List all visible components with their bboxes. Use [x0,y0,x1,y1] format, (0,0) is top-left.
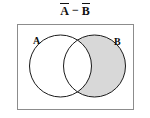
figure-title: A − B [0,1,150,19]
title-left-operand: A [60,3,69,17]
venn-diagram-figure: A − B A B [0,0,150,118]
title-right-operand: B [82,3,90,17]
set-label-a: A [33,36,40,46]
title-operator: − [69,4,82,16]
set-label-b: B [114,37,121,47]
